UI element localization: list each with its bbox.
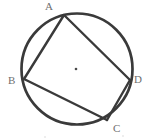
chord-ad [64,15,130,80]
scan-artifact-speck [122,135,124,137]
scan-artifact-speck [44,136,46,138]
vertex-label-b: B [8,75,15,86]
vertex-label-a: A [45,1,53,12]
geometry-canvas [0,0,150,140]
circle-center-dot [75,68,78,71]
vertex-label-d: D [134,74,142,85]
chord-cd [107,80,130,120]
chord-bc [24,79,107,120]
geometry-figure: A B C D [0,0,150,140]
vertex-label-c: C [113,123,120,134]
